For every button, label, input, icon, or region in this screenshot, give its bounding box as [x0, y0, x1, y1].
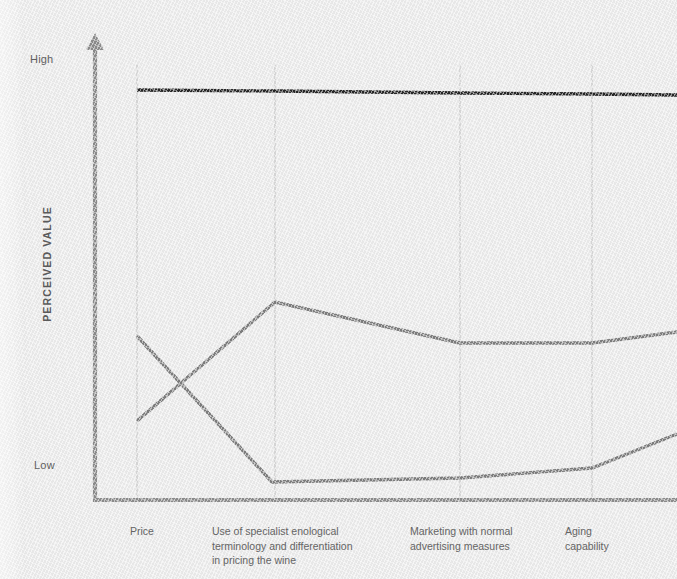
axes	[86, 33, 677, 500]
x-tick-label-aging: Aging capability	[565, 524, 609, 553]
series-descending-gray-line	[137, 336, 677, 482]
gridlines-vertical	[137, 64, 592, 500]
x-tick-label-price: Price	[130, 524, 154, 539]
series-dark-line	[137, 90, 677, 95]
y-axis-arrow-icon	[86, 33, 104, 50]
series-ascending-gray-line	[137, 302, 677, 421]
y-axis-high-label: High	[30, 53, 53, 65]
x-tick-label-terminology: Use of specialist enological terminology…	[212, 524, 352, 568]
chart-page: High Low PERCEIVED VALUE Price Use of sp…	[0, 0, 677, 579]
series-group	[137, 90, 677, 482]
y-axis-low-label: Low	[34, 459, 55, 471]
perceived-value-line-chart	[0, 0, 677, 579]
x-tick-label-marketing: Marketing with normal advertising measur…	[410, 524, 513, 553]
y-axis-title: PERCEIVED VALUE	[41, 204, 53, 324]
